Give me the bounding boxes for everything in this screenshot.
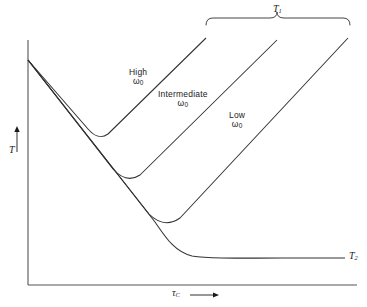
curve-high-omega0 xyxy=(28,38,206,137)
relaxation-time-diagram: High ω0 Intermediate ω0 Low ω0 T1 T2 T τ… xyxy=(0,0,367,307)
x-axis-arrow-icon xyxy=(190,292,219,297)
y-axis-arrow-icon xyxy=(14,126,19,152)
annotation-t2-label: T2 xyxy=(349,251,358,262)
curve-low-omega0 xyxy=(28,38,348,223)
y-axis-title: T xyxy=(9,145,15,156)
annotation-intermediate-omega0-line2: ω0 xyxy=(158,99,208,109)
annotation-low-omega0-line2: ω0 xyxy=(229,120,245,130)
annotation-t1-label: T1 xyxy=(273,4,282,15)
annotation-low-omega0: Low ω0 xyxy=(229,111,245,130)
annotation-high-omega0-line2: ω0 xyxy=(129,77,147,87)
x-axis-title: τC xyxy=(172,288,180,299)
plot-canvas xyxy=(0,0,367,307)
annotation-high-omega0: High ω0 xyxy=(129,68,147,87)
annotation-intermediate-omega0: Intermediate ω0 xyxy=(158,90,208,109)
axes xyxy=(28,40,357,285)
